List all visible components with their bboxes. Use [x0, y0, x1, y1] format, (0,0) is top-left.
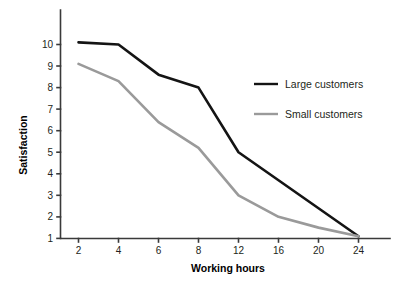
- y-tick-label: 1: [47, 233, 53, 244]
- chart-canvas: 10 9 8 7 6 5 4 3 2 1 2 4 6 8: [0, 0, 404, 291]
- y-tick-label: 10: [42, 39, 54, 50]
- x-tick-label: 20: [313, 245, 325, 256]
- y-tick-label: 8: [47, 82, 53, 93]
- y-axis-title: Satisfaction: [17, 115, 29, 175]
- y-tick-label: 5: [47, 147, 53, 158]
- x-tick-label: 6: [156, 245, 162, 256]
- x-tick-label: 24: [353, 245, 365, 256]
- y-tick-label: 3: [47, 190, 53, 201]
- y-tick-label: 6: [47, 125, 53, 136]
- legend-label: Small customers: [285, 108, 363, 120]
- x-tick-label: 4: [116, 245, 122, 256]
- x-tick-label: 12: [233, 245, 245, 256]
- x-tick-label: 16: [273, 245, 285, 256]
- line-chart: 10 9 8 7 6 5 4 3 2 1 2 4 6 8: [0, 0, 404, 291]
- y-tick-label: 4: [47, 168, 53, 179]
- y-tick-label: 7: [47, 104, 53, 115]
- y-tick-label: 2: [47, 211, 53, 222]
- x-axis-title: Working hours: [191, 262, 265, 274]
- y-tick-label: 9: [47, 61, 53, 72]
- x-tick-label: 8: [196, 245, 202, 256]
- x-tick-label: 2: [76, 245, 82, 256]
- legend-label: Large customers: [285, 78, 363, 90]
